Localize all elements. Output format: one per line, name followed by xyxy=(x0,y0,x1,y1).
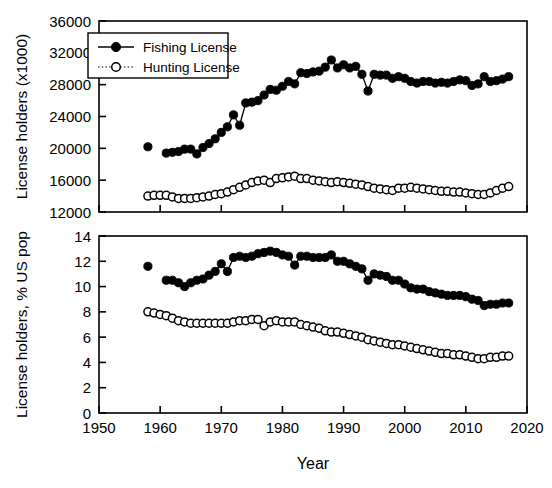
y-tick-label: 36000 xyxy=(49,13,91,30)
data-point xyxy=(291,261,299,269)
data-point xyxy=(236,121,244,129)
y-tick-label: 2 xyxy=(83,379,91,396)
x-axis-label: Year xyxy=(297,455,330,472)
x-tick-label: 1960 xyxy=(143,419,176,436)
chart-legend: Fishing LicenseHunting License xyxy=(88,33,240,78)
y-tick-label: 16000 xyxy=(49,172,91,189)
license-holders-chart: 12000160002000024000280003200036000 Lice… xyxy=(0,0,552,488)
y-tick-label: 12000 xyxy=(49,204,91,221)
y-tick-label: 4 xyxy=(83,354,91,371)
y-tick-label: 6 xyxy=(83,329,91,346)
data-point xyxy=(284,252,292,260)
data-point xyxy=(229,111,237,119)
legend-label: Hunting License xyxy=(143,60,240,75)
bottom-y-axis-label: License holders, % US pop xyxy=(13,231,30,418)
x-tick-label: 2000 xyxy=(388,419,421,436)
data-point xyxy=(321,63,329,71)
data-point xyxy=(217,260,225,268)
data-point xyxy=(358,70,366,78)
legend-label: Fishing License xyxy=(143,40,237,55)
data-point xyxy=(474,80,482,88)
data-point xyxy=(358,265,366,273)
data-point xyxy=(211,135,219,143)
x-tick-label: 2020 xyxy=(510,419,543,436)
y-tick-label: 24000 xyxy=(49,108,91,125)
x-tick-label: 1950 xyxy=(82,419,115,436)
data-point xyxy=(364,276,372,284)
data-point xyxy=(254,315,262,323)
data-point xyxy=(352,62,360,70)
y-tick-label: 8 xyxy=(83,303,91,320)
y-tick-label: 20000 xyxy=(49,140,91,157)
legend-filled-circle-icon xyxy=(111,42,120,51)
y-tick-label: 32000 xyxy=(49,44,91,61)
y-tick-label: 14 xyxy=(74,228,91,245)
data-point xyxy=(327,56,335,64)
x-tick-label: 2010 xyxy=(449,419,482,436)
top-y-axis-label: License holders (x1000) xyxy=(13,34,30,199)
data-point xyxy=(505,299,513,307)
y-tick-label: 10 xyxy=(74,278,91,295)
data-point xyxy=(223,123,231,131)
y-tick-label: 12 xyxy=(74,253,91,270)
data-point xyxy=(505,352,513,360)
data-point xyxy=(223,267,231,275)
data-point xyxy=(327,251,335,259)
data-point xyxy=(144,262,152,270)
legend-open-circle-icon xyxy=(112,63,121,72)
data-point xyxy=(505,183,513,191)
data-point xyxy=(505,73,513,81)
x-tick-label: 1990 xyxy=(327,419,360,436)
x-tick-label: 1980 xyxy=(266,419,299,436)
figure-container: 12000160002000024000280003200036000 Lice… xyxy=(0,0,552,488)
x-tick-label: 1970 xyxy=(205,419,238,436)
y-tick-label: 28000 xyxy=(49,76,91,93)
data-point xyxy=(193,150,201,158)
data-point xyxy=(144,143,152,151)
data-point xyxy=(364,87,372,95)
data-point xyxy=(291,80,299,88)
data-point xyxy=(211,267,219,275)
